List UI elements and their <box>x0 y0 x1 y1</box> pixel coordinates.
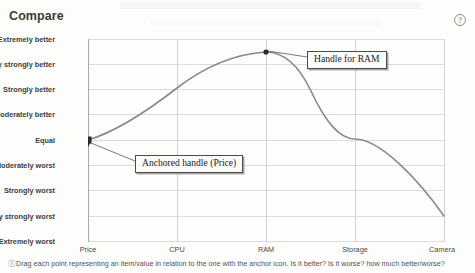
chart-plot-svg[interactable] <box>88 39 445 242</box>
paper-artifact <box>150 20 380 25</box>
page-title: Compare <box>9 9 64 23</box>
x-tick-label-storage: Storage <box>342 245 368 254</box>
footer-hint: ⓘDrag each point representing an item/va… <box>8 257 445 268</box>
x-tick-label-cpu: CPU <box>169 245 184 254</box>
leader-line-ram <box>268 51 307 57</box>
y-tick-label: Equal <box>0 136 55 145</box>
y-tick-label: Moderately better <box>0 110 55 119</box>
paper-artifact <box>120 2 420 9</box>
y-tick-label: Very strongly better <box>0 60 55 69</box>
y-tick-label: Extremely worst <box>0 237 55 246</box>
anchored-handle-marker[interactable] <box>88 137 92 148</box>
info-circle-icon: ⓘ <box>8 257 15 268</box>
comparison-chart[interactable]: Extremely better Very strongly better St… <box>88 39 445 242</box>
y-tick-label: Moderately worst <box>0 161 55 170</box>
help-circle-icon[interactable]: ? <box>454 14 466 26</box>
ram-handle-marker[interactable] <box>263 49 268 54</box>
compare-panel: Compare ? <box>0 0 475 273</box>
y-tick-label: Strongly better <box>0 85 55 94</box>
callout-handle-for-ram: Handle for RAM <box>307 51 387 69</box>
x-tick-label-camera: Camera <box>429 245 455 254</box>
callout-anchored-handle: Anchored handle (Price) <box>135 155 243 173</box>
y-tick-label: Extremely better <box>0 35 55 44</box>
x-tick-label-price: Price <box>80 245 97 254</box>
footer-hint-text: Drag each point representing an item/val… <box>16 259 445 268</box>
x-tick-label-ram: RAM <box>258 245 274 254</box>
y-tick-label: Strongly worst <box>0 186 55 195</box>
leader-line-anchor <box>91 143 135 161</box>
y-tick-label: Very strongly worst <box>0 212 55 221</box>
